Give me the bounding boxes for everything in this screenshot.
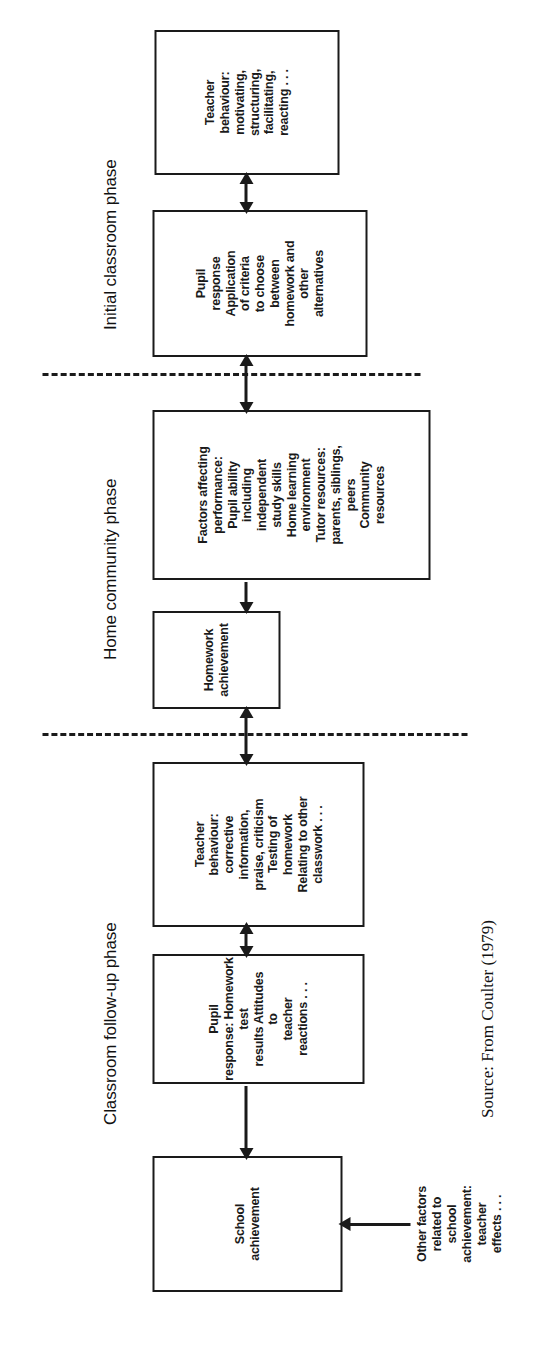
arrowhead-factors-to-homework-achievement [239,602,253,614]
annotation-other-factors: Other factors related to school achievem… [414,1162,504,1286]
phase-label-classroom-followup: Classroom follow-up phase [100,922,120,1125]
phase-divider-home-followup [42,733,467,736]
arrowhead-teacher-initial-to-pupil-initial-left [239,202,253,214]
arrowhead-pupil-followup-to-school-achievement [239,1148,253,1160]
node-factors-affecting-performance: Factors affecting performance: Pupil abi… [152,410,430,580]
arrowhead-other-factors-to-school-achievement [338,1218,350,1232]
node-teacher-behaviour-followup: Teacher behaviour: corrective informatio… [152,762,364,927]
node-school-achievement-text: School achievement [232,1187,262,1261]
connector-other-factors-to-school-achievement [348,1223,410,1226]
node-homework-achievement: Homework achievement [152,611,280,709]
arrowhead-pupil-initial-to-factors-left [239,402,253,414]
node-pupil-response-followup-text: Pupil response: Homework test results At… [206,957,309,1081]
arrowhead-teacher-followup-to-pupil-followup-left [239,946,253,958]
node-teacher-behaviour-followup-text: Teacher behaviour: corrective informatio… [192,797,325,893]
arrowhead-teacher-initial-to-pupil-initial-right [239,172,253,184]
node-factors-affecting-performance-text: Factors affecting performance: Pupil abi… [195,445,387,544]
rotated-diagram-stage: Initial classroom phase Home community p… [0,0,553,1360]
arrowhead-homework-to-teacher-followup-left [239,754,253,766]
node-homework-achievement-text: Homework achievement [201,623,231,697]
source-caption: Source: From Coulter (1979) [478,920,498,1118]
phase-label-initial-classroom: Initial classroom phase [100,159,120,330]
arrowhead-teacher-followup-to-pupil-followup-right [239,922,253,934]
node-school-achievement-main: School achievement [152,1156,342,1292]
node-teacher-behaviour-initial-text: Teacher behaviour: motivating, structuri… [202,69,291,136]
phase-divider-initial-home [42,373,420,376]
connector-pupil-followup-to-school-achievement [244,1086,247,1154]
node-teacher-behaviour-initial: Teacher behaviour: motivating, structuri… [154,30,339,175]
phase-label-home-community: Home community phase [100,479,120,660]
node-pupil-response-followup: Pupil response: Homework test results At… [152,954,364,1084]
arrowhead-homework-to-teacher-followup-right [239,706,253,718]
node-pupil-response-initial-text: Pupil response Application of criteria t… [193,241,326,327]
diagram-canvas: Initial classroom phase Home community p… [0,0,553,1360]
arrowhead-pupil-initial-to-factors-right [239,354,253,366]
node-pupil-response-initial: Pupil response Application of criteria t… [152,210,367,357]
